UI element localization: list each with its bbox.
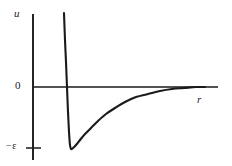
potential-energy-curve xyxy=(64,13,205,149)
y-axis-label: u xyxy=(14,8,20,19)
x-axis-label: r xyxy=(197,94,201,105)
well-depth-tick-label: −ε xyxy=(6,141,17,151)
plot-canvas xyxy=(0,0,232,166)
zero-tick-label: 0 xyxy=(15,80,21,91)
potential-energy-figure: u r 0 −ε xyxy=(0,0,232,166)
